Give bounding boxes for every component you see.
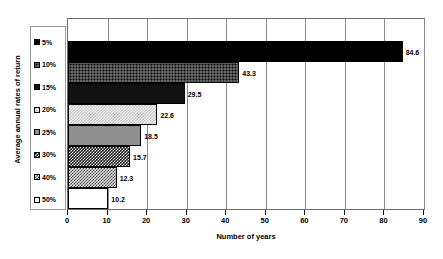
x-tick (344, 210, 345, 215)
legend-item-5pct[interactable]: 5% (34, 31, 65, 54)
legend-item-label: 25% (42, 129, 56, 136)
x-tick (186, 210, 187, 215)
bar-20pct[interactable] (68, 104, 157, 125)
legend-item-10pct[interactable]: 10% (34, 54, 65, 77)
legend-swatch-icon (34, 107, 40, 113)
legend-item-50pct[interactable]: 50% (34, 189, 65, 212)
x-tick-label: 10 (102, 216, 110, 225)
bar-value-label: 18.5 (141, 132, 158, 139)
legend-item-label: 50% (42, 196, 56, 203)
legend-item-label: 30% (42, 151, 56, 158)
bar-value-label: 10.2 (108, 195, 125, 202)
x-tick-label: 60 (300, 216, 308, 225)
legend-item-20pct[interactable]: 20% (34, 99, 65, 122)
bar-row: 43.3 (68, 62, 424, 83)
legend-item-25pct[interactable]: 25% (34, 121, 65, 144)
bar-value-label: 12.3 (117, 174, 134, 181)
legend-item-label: 40% (42, 174, 56, 181)
legend-item-label: 5% (42, 39, 52, 46)
bar-40pct[interactable] (68, 167, 117, 188)
x-tick-label: 30 (181, 216, 189, 225)
legend-item-label: 20% (42, 106, 56, 113)
legend-item-label: 15% (42, 84, 56, 91)
bar-row: 10.2 (68, 188, 424, 209)
bar-series: 84.643.329.522.618.515.712.310.2 (68, 41, 424, 209)
bar-value-label: 15.7 (130, 153, 147, 160)
bar-value-label: 43.3 (239, 69, 256, 76)
legend-swatch-icon (34, 84, 40, 90)
x-tick (225, 210, 226, 215)
x-axis-ticks (67, 210, 425, 215)
chart-legend: 5%10%15%20%25%30%40%50% (30, 26, 66, 210)
x-tick-label: 0 (65, 216, 69, 225)
bar-row: 15.7 (68, 146, 424, 167)
bar-row: 22.6 (68, 104, 424, 125)
bar-25pct[interactable] (68, 125, 141, 146)
legend-item-40pct[interactable]: 40% (34, 166, 65, 189)
bar-value-label: 22.6 (157, 111, 174, 118)
plot-area: 84.643.329.522.618.515.712.310.2 (67, 18, 425, 210)
legend-item-30pct[interactable]: 30% (34, 144, 65, 167)
bar-10pct[interactable] (68, 62, 239, 83)
legend-swatch-icon (34, 174, 40, 180)
x-axis-tick-labels: 0102030405060708090 (67, 216, 425, 228)
x-tick (304, 210, 305, 215)
legend-swatch-icon (34, 197, 40, 203)
bar-row: 84.6 (68, 41, 424, 62)
x-tick-label: 70 (340, 216, 348, 225)
bar-row: 29.5 (68, 83, 424, 104)
x-tick-label: 90 (419, 216, 427, 225)
bar-15pct[interactable] (68, 83, 185, 104)
bar-row: 12.3 (68, 167, 424, 188)
legend-swatch-icon (34, 152, 40, 158)
x-tick (423, 210, 424, 215)
x-tick (146, 210, 147, 215)
bar-50pct[interactable] (68, 188, 108, 209)
bar-chart: Average annual rates of return 5%10%15%2… (0, 0, 443, 259)
x-tick (107, 210, 108, 215)
legend-swatch-icon (34, 62, 40, 68)
bar-30pct[interactable] (68, 146, 130, 167)
bar-row: 18.5 (68, 125, 424, 146)
bar-value-label: 84.6 (403, 48, 420, 55)
x-tick (265, 210, 266, 215)
x-tick-label: 20 (142, 216, 150, 225)
y-axis-title: Average annual rates of return (13, 20, 22, 200)
bar-value-label: 29.5 (185, 90, 202, 97)
x-tick-label: 80 (379, 216, 387, 225)
gridline (424, 19, 425, 209)
legend-swatch-icon (34, 39, 40, 45)
x-tick-label: 50 (261, 216, 269, 225)
legend-item-15pct[interactable]: 15% (34, 76, 65, 99)
bar-5pct[interactable] (68, 41, 403, 62)
x-tick-label: 40 (221, 216, 229, 225)
legend-item-label: 10% (42, 61, 56, 68)
x-tick (383, 210, 384, 215)
x-tick (67, 210, 68, 215)
legend-swatch-icon (34, 129, 40, 135)
x-axis-title: Number of years (67, 232, 425, 241)
